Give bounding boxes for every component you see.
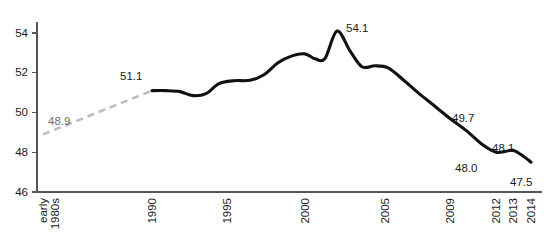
x-tick-label-group: early1980s bbox=[37, 198, 61, 230]
y-tick-label: 48 bbox=[15, 146, 28, 158]
x-tick-label-group: 2000 bbox=[299, 198, 311, 224]
label-48-9: 48.9 bbox=[48, 115, 70, 127]
label-54-1: 54.1 bbox=[346, 22, 368, 34]
x-tick-label-group: 2012 bbox=[490, 198, 502, 224]
series-line-estimated bbox=[43, 91, 152, 135]
label-48-0: 48.0 bbox=[455, 162, 477, 174]
label-47-5: 47.5 bbox=[510, 176, 532, 188]
x-tick-label: 2005 bbox=[379, 198, 391, 224]
x-tick-label-group: 1995 bbox=[221, 198, 233, 224]
x-tick-label-group: 2014 bbox=[525, 197, 537, 223]
x-tick-label-group: 1990 bbox=[146, 198, 158, 224]
x-tick-label: 2012 bbox=[490, 198, 502, 224]
x-tick-label-group: 2013 bbox=[507, 198, 519, 224]
chart-canvas: 4648505254early1980s19901995200020052009… bbox=[0, 0, 548, 243]
label-49-7: 49.7 bbox=[452, 112, 474, 124]
y-tick-label: 50 bbox=[15, 106, 28, 118]
x-tick-label-group: 2009 bbox=[444, 198, 456, 224]
y-tick-label: 52 bbox=[15, 66, 28, 78]
x-tick-label: early bbox=[37, 198, 49, 223]
x-tick-label-group: 2005 bbox=[379, 198, 391, 224]
label-51-1: 51.1 bbox=[120, 70, 142, 82]
x-tick-label: 2014 bbox=[525, 197, 537, 223]
x-tick-label: 1990 bbox=[146, 198, 158, 224]
x-tick-label: 2013 bbox=[507, 198, 519, 224]
x-tick-label: 2009 bbox=[444, 198, 456, 224]
x-tick-label: 1980s bbox=[49, 198, 61, 230]
x-tick-label: 2000 bbox=[299, 198, 311, 224]
series-line-observed bbox=[152, 31, 531, 162]
y-tick-label: 54 bbox=[15, 27, 28, 39]
y-tick-label: 46 bbox=[15, 186, 28, 198]
line-chart: 4648505254early1980s19901995200020052009… bbox=[0, 0, 548, 243]
x-tick-label: 1995 bbox=[221, 198, 233, 224]
label-48-1: 48.1 bbox=[492, 142, 514, 154]
